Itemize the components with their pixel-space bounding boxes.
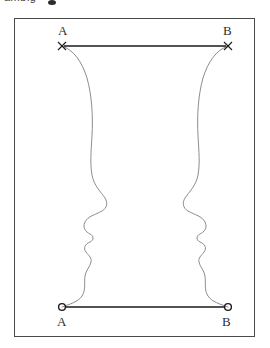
- figure-root: ambig A B A B: [0, 0, 270, 348]
- cropped-caption-text: ambig: [4, 0, 36, 3]
- cropped-caption-blob: [48, 0, 56, 5]
- figure-border-frame: [14, 18, 255, 337]
- top-cropped-caption-strip: ambig: [0, 0, 270, 7]
